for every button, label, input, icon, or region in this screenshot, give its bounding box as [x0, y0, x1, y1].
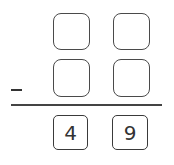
minuend-tens-box[interactable] — [53, 13, 90, 50]
result-tens-box: 4 — [53, 115, 88, 150]
minus-sign — [11, 89, 22, 91]
minuend-ones-box[interactable] — [113, 13, 150, 50]
result-line — [11, 104, 162, 106]
subtrahend-ones-box[interactable] — [113, 59, 150, 97]
subtrahend-tens-box[interactable] — [53, 59, 90, 97]
result-ones-box: 9 — [112, 115, 148, 150]
